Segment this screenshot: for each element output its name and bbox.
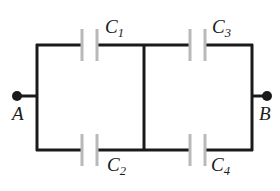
- capacitor-c4-plates: [190, 134, 205, 166]
- capacitor-network-figure: C1 C3 C2 C4 A B: [0, 0, 280, 191]
- circuit-schematic-svg: [0, 0, 280, 191]
- terminal-b-dot: [262, 91, 272, 101]
- terminal-b: [251, 91, 272, 101]
- capacitor-c1-plates: [82, 29, 97, 61]
- terminal-a-dot: [12, 91, 22, 101]
- capacitor-c2-plates: [82, 134, 97, 166]
- terminal-a: [12, 91, 38, 101]
- vertical-rails: [37, 44, 252, 151]
- capacitor-c3-plates: [190, 29, 205, 61]
